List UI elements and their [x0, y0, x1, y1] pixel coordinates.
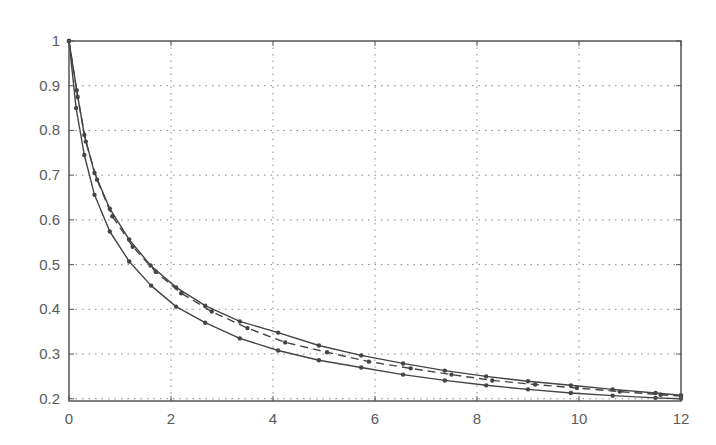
- data-point-marker: [95, 177, 99, 181]
- data-point-marker: [443, 368, 447, 372]
- data-point-marker: [203, 321, 207, 325]
- data-point-marker: [610, 393, 614, 397]
- data-point-marker: [367, 359, 371, 363]
- series-2: [67, 39, 683, 398]
- data-point-marker: [92, 193, 96, 197]
- data-point-marker: [401, 372, 405, 376]
- x-tick-label: 12: [673, 410, 690, 427]
- y-tick-label: 1: [52, 32, 60, 49]
- data-point-marker: [658, 393, 662, 397]
- grid-lines: [69, 41, 681, 401]
- data-point-marker: [618, 389, 622, 393]
- y-axis-tick-labels: 0.20.30.40.50.60.70.80.91: [39, 32, 60, 407]
- data-point-marker: [575, 386, 579, 390]
- x-tick-label: 0: [65, 410, 73, 427]
- y-tick-label: 0.5: [39, 256, 60, 273]
- data-point-marker: [174, 304, 178, 308]
- x-tick-label: 4: [269, 410, 277, 427]
- series-1: [67, 39, 683, 398]
- data-point-marker: [108, 229, 112, 233]
- y-tick-label: 0.6: [39, 211, 60, 228]
- y-tick-label: 0.7: [39, 166, 60, 183]
- data-point-marker: [359, 365, 363, 369]
- data-point-marker: [245, 326, 249, 330]
- x-tick-label: 2: [167, 410, 175, 427]
- y-tick-label: 0.2: [39, 390, 60, 407]
- data-point-marker: [149, 283, 153, 287]
- data-point-marker: [238, 319, 242, 323]
- data-point-marker: [238, 336, 242, 340]
- line-chart: 024681012 0.20.30.40.50.60.70.80.91: [0, 0, 716, 445]
- data-point-marker: [210, 309, 214, 313]
- data-point-marker: [74, 88, 78, 92]
- data-point-marker: [127, 259, 131, 263]
- y-tick-label: 0.8: [39, 121, 60, 138]
- data-point-marker: [401, 361, 405, 365]
- data-point-marker: [359, 353, 363, 357]
- data-point-marker: [283, 340, 287, 344]
- data-point-marker: [317, 358, 321, 362]
- data-point-marker: [317, 343, 321, 347]
- data-point-marker: [154, 270, 158, 274]
- x-tick-label: 8: [473, 410, 481, 427]
- data-point-marker: [75, 95, 79, 99]
- data-point-marker: [490, 378, 494, 382]
- data-point-marker: [82, 153, 86, 157]
- x-tick-label: 6: [371, 410, 379, 427]
- data-point-marker: [74, 106, 78, 110]
- data-point-marker: [484, 383, 488, 387]
- data-point-marker: [526, 387, 530, 391]
- data-point-marker: [569, 391, 573, 395]
- data-point-marker: [653, 396, 657, 400]
- data-point-marker: [533, 382, 537, 386]
- y-tick-label: 0.9: [39, 77, 60, 94]
- data-point-marker: [276, 330, 280, 334]
- y-tick-label: 0.3: [39, 345, 60, 362]
- data-point-marker: [131, 245, 135, 249]
- data-point-marker: [449, 372, 453, 376]
- data-point-marker: [276, 348, 280, 352]
- data-point-marker: [409, 366, 413, 370]
- data-point-marker: [110, 214, 114, 218]
- data-point-marker: [325, 350, 329, 354]
- data-point-marker: [179, 291, 183, 295]
- x-tick-label: 10: [571, 410, 588, 427]
- data-point-marker: [484, 374, 488, 378]
- data-point-marker: [526, 379, 530, 383]
- data-point-marker: [443, 378, 447, 382]
- x-axis-tick-labels: 024681012: [65, 410, 690, 427]
- y-tick-label: 0.4: [39, 300, 60, 317]
- data-point-marker: [84, 139, 88, 143]
